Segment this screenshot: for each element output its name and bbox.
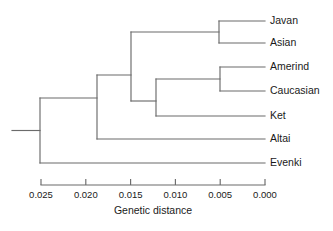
axis-tick-label-4: 0.005 — [208, 189, 232, 200]
tip-label-ket: Ket — [270, 109, 286, 121]
tip-label-amerind: Amerind — [270, 60, 309, 72]
axis-tick-label-1: 0.020 — [74, 189, 98, 200]
tip-label-altai: Altai — [270, 132, 290, 144]
tip-labels: Javan Asian Amerind Caucasian Ket Altai … — [270, 14, 320, 168]
phylogenetic-tree-figure: Javan Asian Amerind Caucasian Ket Altai … — [0, 0, 333, 231]
axis-tick-label-0: 0.025 — [29, 189, 53, 200]
tree-branches — [12, 21, 265, 163]
tip-label-asian: Asian — [270, 36, 296, 48]
axis-title-genetic-distance: Genetic distance — [114, 204, 192, 216]
tip-label-javan: Javan — [270, 14, 298, 26]
x-axis: 0.025 0.020 0.015 0.010 0.005 0.000 Gene… — [29, 179, 277, 216]
axis-tick-label-3: 0.010 — [164, 189, 188, 200]
axis-tick-label-2: 0.015 — [119, 189, 143, 200]
axis-tick-label-5: 0.000 — [253, 189, 277, 200]
tip-label-caucasian: Caucasian — [270, 84, 320, 96]
tree-diagram: Javan Asian Amerind Caucasian Ket Altai … — [0, 0, 333, 231]
tip-label-evenki: Evenki — [270, 156, 302, 168]
